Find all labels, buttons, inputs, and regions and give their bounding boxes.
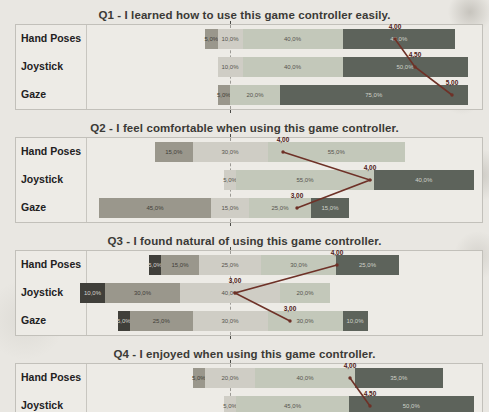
bar-segment-disagree: 25,0% (130, 311, 193, 331)
bar-segment-disagree: 15,0% (161, 255, 199, 275)
bar-segment-strongly_disagree: 5,0% (118, 311, 131, 331)
median-value-label: 4,00 (331, 249, 344, 256)
bar-segment-value: 40,0% (221, 290, 238, 296)
row-plot-area: 5,0%20,0%75,0%5,00 (86, 81, 482, 109)
bar-segment-disagree: 45,0% (99, 198, 212, 218)
bar-segment-value: 30,0% (134, 290, 151, 296)
bar-segment-agree: 25,0% (249, 198, 312, 218)
bar-segment-value: 10,0% (221, 36, 238, 42)
median-value-label: 5,00 (446, 79, 459, 86)
axis-tick (230, 134, 231, 137)
bar-segment-value: 15,0% (165, 149, 182, 155)
bar-segment-strongly_agree: 45,0% (343, 29, 456, 49)
row-plot-area: 10,0%30,0%40,0%20,0%3,00 (86, 279, 482, 307)
bar-segment-neutral: 20,0% (205, 368, 255, 388)
bar-segment-strongly_disagree: 5,0% (149, 255, 162, 275)
bar-segment-disagree: 5,0% (193, 368, 206, 388)
bar-segment-value: 5,0% (217, 92, 231, 98)
bar-segment-disagree: 5,0% (218, 85, 231, 105)
bar-segment-disagree: 30,0% (105, 283, 180, 303)
bar-segment-agree: 20,0% (280, 283, 330, 303)
question-block: Q1 - I learned how to use this game cont… (0, 9, 489, 110)
bar-segment-value: 20,0% (221, 375, 238, 381)
bar-segment-value: 5,0% (148, 262, 162, 268)
bar-segment-value: 5,0% (223, 403, 237, 409)
bar-segment-value: 25,0% (359, 262, 376, 268)
bar-segment-value: 40,0% (415, 177, 432, 183)
bar-segment-value: 40,0% (284, 64, 301, 70)
chart-panel: Hand Poses5,0%20,0%40,0%35,0%4,00Joystic… (15, 363, 483, 412)
bar-segment-value: 40,0% (296, 375, 313, 381)
bar-segment-value: 50,0% (403, 403, 420, 409)
bar-segment-neutral: 25,0% (199, 255, 262, 275)
row-label: Hand Poses (21, 145, 81, 157)
bar-segment-value: 40,0% (284, 36, 301, 42)
bar-segment-value: 45,0% (146, 205, 163, 211)
bar-segment-value: 75,0% (365, 92, 382, 98)
bar-segment-value: 45,0% (390, 36, 407, 42)
row-plot-area: 5,0%15,0%25,0%30,0%25,0%4,00 (86, 251, 482, 279)
bar-segment-value: 50,0% (396, 64, 413, 70)
bar-segment-disagree: 15,0% (155, 142, 193, 162)
row-plot-area: 45,0%15,0%25,0%15,0%3,00 (86, 194, 482, 222)
bar-segment-neutral: 15,0% (211, 198, 249, 218)
chart-row: Joystick5,0%45,0%50,0%4,50 (16, 392, 482, 412)
median-value-label: 4,00 (344, 362, 357, 369)
bar-segment-strongly_agree: 25,0% (336, 255, 399, 275)
bar-segment-neutral: 5,0% (224, 170, 237, 190)
bar-segment-agree: 30,0% (261, 255, 336, 275)
median-value-label: 4,00 (364, 164, 377, 171)
median-value-label: 4,00 (277, 136, 290, 143)
bar-segment-value: 5,0% (192, 375, 206, 381)
bar-segment-strongly_agree: 10,0% (343, 311, 368, 331)
axis-tick (230, 247, 231, 250)
bar-segment-strongly_disagree: 10,0% (80, 283, 105, 303)
bar-segment-agree: 55,0% (236, 170, 374, 190)
row-plot-area: 10,0%40,0%50,0%4,50 (86, 53, 482, 81)
bar-segment-value: 10,0% (346, 318, 363, 324)
row-plot-area: 15,0%30,0%55,0%4,00 (86, 138, 482, 166)
likert-survey-charts: Q1 - I learned how to use this game cont… (0, 9, 489, 412)
bar-segment-neutral: 10,0% (218, 57, 243, 77)
bar-segment-value: 30,0% (290, 262, 307, 268)
bar-segment-value: 45,0% (284, 403, 301, 409)
bar-segment-value: 15,0% (321, 205, 338, 211)
row-label: Gaze (21, 201, 46, 213)
bar-segment-strongly_agree: 50,0% (343, 57, 468, 77)
bar-segment-neutral: 30,0% (193, 311, 268, 331)
bar-segment-neutral: 30,0% (193, 142, 268, 162)
question-block: Q3 - I found natural of using this game … (0, 235, 489, 336)
bar-segment-value: 5,0% (223, 177, 237, 183)
bar-segment-agree: 40,0% (243, 29, 343, 49)
median-value-label: 3,00 (284, 305, 297, 312)
bar-segment-value: 20,0% (246, 92, 263, 98)
bar-segment-value: 35,0% (390, 375, 407, 381)
row-label: Gaze (21, 314, 46, 326)
question-block: Q2 - I feel comfortable when using this … (0, 122, 489, 223)
chart-row: Joystick10,0%30,0%40,0%20,0%3,00 (16, 279, 482, 307)
axis-tick (230, 360, 231, 363)
bar-segment-strongly_agree: 75,0% (280, 85, 468, 105)
median-value-label: 3,00 (291, 192, 304, 199)
chart-title: Q2 - I feel comfortable when using this … (0, 122, 489, 134)
axis-tick (230, 21, 231, 24)
bar-segment-value: 15,0% (221, 205, 238, 211)
axis-tick (230, 336, 231, 339)
row-label: Joystick (21, 286, 63, 298)
chart-row: Gaze5,0%20,0%75,0%5,00 (16, 81, 482, 109)
axis-tick (230, 223, 231, 226)
bar-segment-value: 55,0% (328, 149, 345, 155)
row-label: Hand Poses (21, 32, 81, 44)
row-plot-area: 5,0%55,0%40,0%4,00 (86, 166, 482, 194)
row-label: Hand Poses (21, 258, 81, 270)
bar-segment-value: 25,0% (153, 318, 170, 324)
chart-title: Q1 - I learned how to use this game cont… (0, 9, 489, 21)
bar-segment-agree: 40,0% (243, 57, 343, 77)
median-value-label: 3,00 (229, 277, 242, 284)
bar-segment-value: 30,0% (221, 149, 238, 155)
axis-tick (230, 110, 231, 113)
row-label: Joystick (21, 399, 63, 411)
bar-segment-strongly_agree: 50,0% (349, 396, 474, 412)
bar-segment-neutral: 40,0% (180, 283, 280, 303)
bar-segment-agree: 45,0% (236, 396, 349, 412)
